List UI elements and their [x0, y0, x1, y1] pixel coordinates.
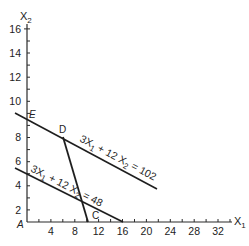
y-tick-label: 16: [9, 23, 21, 35]
constraint-line-102: [15, 113, 157, 189]
y-tick-label: 6: [15, 155, 21, 167]
y-axis-tick-labels: 2 4 6 8 10 12 14 16: [9, 23, 21, 216]
x-tick-label: 32: [212, 225, 224, 237]
x-axis-title: X1: [234, 215, 246, 230]
point-label-e: E: [29, 109, 36, 120]
equation-label-102: 3X1 + 12 X2 = 102: [77, 132, 159, 185]
x-tick-label: 8: [72, 225, 78, 237]
x-tick-label: 4: [48, 225, 54, 237]
x-tick-label: 28: [188, 225, 200, 237]
point-label-a: A: [16, 219, 24, 230]
x-tick-label: 12: [93, 225, 105, 237]
y-tick-label: 12: [9, 71, 21, 83]
y-tick-label: 8: [15, 131, 21, 143]
y-axis-title: X2: [20, 10, 32, 25]
equation-label-48: 3X1 + 12 X2 = 48: [28, 162, 105, 211]
y-tick-label: 10: [9, 95, 21, 107]
y-tick-label: 4: [15, 179, 21, 191]
x-tick-label: 20: [141, 225, 153, 237]
x-tick-label: 16: [117, 225, 129, 237]
constraint-line-48: [15, 168, 123, 222]
x-axis-tick-labels: 4 8 12 16 20 24 28 32: [48, 225, 224, 237]
point-label-d: D: [59, 124, 66, 135]
y-tick-label: 2: [15, 204, 21, 216]
point-label-c: C: [92, 210, 99, 221]
x-tick-label: 24: [164, 225, 176, 237]
lp-diagram: 2 4 6 8 10 12 14 16 4 8 12 16 20 24 28 3…: [0, 0, 249, 246]
y-tick-label: 14: [9, 47, 21, 59]
